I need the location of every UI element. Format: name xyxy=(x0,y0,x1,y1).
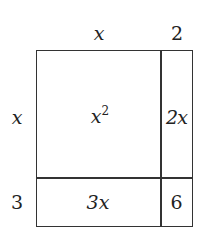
horizontal-divider xyxy=(36,177,193,179)
cell-3x: 3x xyxy=(78,193,118,212)
cell-6: 6 xyxy=(161,193,192,212)
top-label-2: 2 xyxy=(166,24,188,43)
side-label-x: x xyxy=(6,108,28,127)
cell-x-squared: x2 xyxy=(80,107,120,126)
cell-x-squared-exponent: 2 xyxy=(102,104,110,118)
cell-2x: 2x xyxy=(161,108,192,127)
cell-x-squared-base: x xyxy=(91,105,102,127)
side-label-3: 3 xyxy=(6,193,28,212)
top-label-x: x xyxy=(88,24,110,43)
